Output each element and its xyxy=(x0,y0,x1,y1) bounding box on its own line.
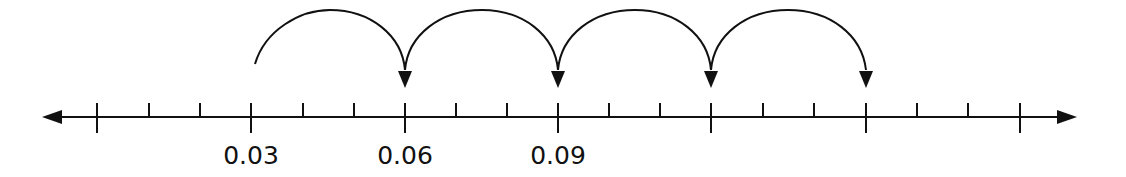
jump-arc-3 xyxy=(558,10,711,70)
jump-arc-2 xyxy=(405,10,558,70)
right-arrow-icon xyxy=(1057,110,1077,124)
down-arrow-icon xyxy=(398,71,412,88)
down-arrow-icon xyxy=(859,71,873,88)
tick-label-0-03: 0.03 xyxy=(223,141,279,170)
left-arrow-icon xyxy=(42,110,62,124)
down-arrow-icon xyxy=(551,71,565,88)
jump-arc-1 xyxy=(255,10,405,70)
tick-label-0-06: 0.06 xyxy=(377,141,433,170)
down-arrow-icon xyxy=(704,71,718,88)
tick-label-0-09: 0.09 xyxy=(530,141,586,170)
jump-arrowheads xyxy=(398,71,873,88)
jump-arcs xyxy=(255,10,866,70)
jump-arc-4 xyxy=(711,10,866,70)
